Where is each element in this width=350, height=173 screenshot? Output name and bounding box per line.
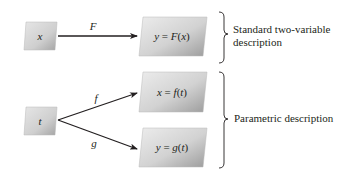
- input-box-x-label: x: [37, 30, 43, 42]
- standard-description-text: Standard two-variable description: [233, 23, 348, 49]
- parametric-description-text: Parametric description: [234, 112, 349, 125]
- output-box-y-equals-g-of-t: y = g(t): [139, 128, 207, 167]
- output-box-x-equals-f-of-t: x = f(t): [139, 72, 207, 112]
- brace-standard-icon: [219, 12, 228, 63]
- output-box-F-label: y = F(x): [153, 30, 190, 43]
- output-box-f-label: x = f(t): [156, 86, 187, 99]
- brace-parametric-icon: [219, 72, 228, 168]
- arrow-F: F: [58, 20, 137, 36]
- arrow-F-label: F: [89, 20, 97, 32]
- arrow-g-label: g: [91, 137, 97, 149]
- input-box-t: t: [24, 107, 57, 135]
- input-box-x: x: [24, 22, 57, 50]
- output-box-g-label: y = g(t): [155, 141, 189, 154]
- arrow-g: g: [58, 120, 137, 149]
- arrow-f: f: [58, 92, 137, 120]
- arrow-f-label: f: [94, 92, 99, 104]
- output-box-y-equals-F-of-x: y = F(x): [139, 17, 207, 56]
